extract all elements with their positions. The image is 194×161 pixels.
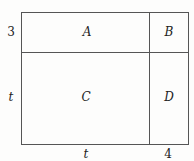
- region-a-label: A: [83, 25, 92, 39]
- vertical-divider: [149, 12, 150, 145]
- bottom-label-t: t: [84, 147, 89, 161]
- bottom-label-4: 4: [164, 147, 172, 161]
- left-label-t: t: [9, 90, 14, 104]
- region-b-label: B: [165, 25, 174, 39]
- right-border: [188, 12, 189, 145]
- left-border: [21, 12, 22, 145]
- region-c-label: C: [81, 90, 90, 104]
- top-border: [21, 12, 189, 13]
- bottom-border: [21, 144, 189, 145]
- region-d-label: D: [164, 90, 174, 104]
- horizontal-divider: [21, 52, 189, 53]
- left-label-3: 3: [7, 25, 15, 39]
